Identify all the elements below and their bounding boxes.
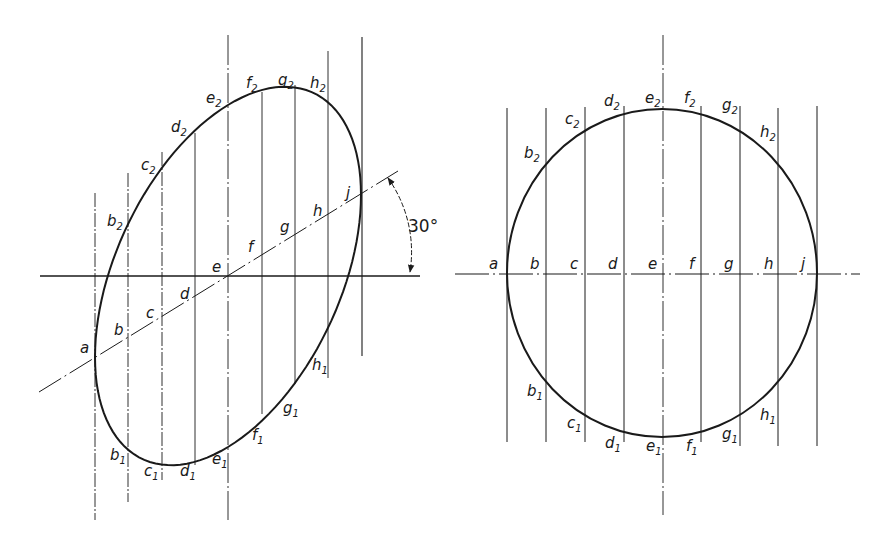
label-f-right: f [689, 255, 697, 273]
label-e-left: e [212, 258, 221, 276]
label-b1-right: b1 [527, 382, 543, 402]
label-h-left: h [313, 202, 323, 220]
label-g-left: g [280, 218, 290, 236]
label-d1-right: d1 [605, 434, 621, 454]
label-h2-right: h2 [760, 123, 776, 143]
left-figure-inclined-ellipse [39, 35, 420, 520]
label-f-left: f [248, 238, 256, 256]
label-a-left: a [80, 339, 89, 357]
label-e1-left: e1 [212, 450, 228, 470]
label-e1-right: e1 [646, 437, 662, 457]
label-b1-left: b1 [110, 446, 126, 466]
label-c-left: c [146, 304, 155, 322]
label-e2-right: e2 [645, 89, 661, 109]
label-c2-right: c2 [565, 110, 580, 130]
label-g2-left: g2 [278, 71, 294, 91]
ellipse-construction-diagram: a b c d e f g h j b2 c2 d2 e2 f2 g2 h2 b… [0, 0, 884, 554]
label-d-left: d [180, 285, 190, 303]
label-h2-left: h2 [310, 74, 326, 94]
label-e2-left: e2 [206, 89, 222, 109]
label-f2-left: f2 [246, 74, 258, 94]
label-b2-right: b2 [524, 144, 540, 164]
label-c1-right: c1 [567, 414, 582, 434]
label-g2-right: g2 [722, 96, 738, 116]
label-h-right: h [764, 255, 774, 273]
label-j-right: j [799, 255, 806, 273]
label-d-right: d [608, 255, 618, 273]
label-d2-left: d2 [171, 118, 187, 138]
angle-label: 30° [408, 216, 438, 236]
left-inclined-axis [39, 171, 398, 392]
label-j-left: j [344, 184, 351, 202]
label-c2-left: c2 [141, 156, 156, 176]
label-f1-left: f1 [252, 426, 264, 446]
label-g1-right: g1 [722, 425, 738, 445]
label-e-right: e [648, 255, 657, 273]
label-f1-right: f1 [686, 437, 698, 457]
label-c-right: c [570, 255, 579, 273]
label-f2-right: f2 [684, 89, 696, 109]
label-g1-left: g1 [283, 399, 299, 419]
label-a-right: a [489, 255, 498, 273]
label-d2-right: d2 [604, 92, 620, 112]
label-g-right: g [724, 255, 734, 273]
label-h1-right: h1 [760, 406, 776, 426]
label-c1-left: c1 [144, 462, 159, 482]
label-b-left: b [114, 321, 124, 339]
label-d1-left: d1 [180, 462, 196, 482]
label-h1-left: h1 [312, 356, 328, 376]
label-b-right: b [530, 255, 540, 273]
label-b2-left: b2 [107, 212, 123, 232]
right-circle-curve [507, 109, 817, 437]
